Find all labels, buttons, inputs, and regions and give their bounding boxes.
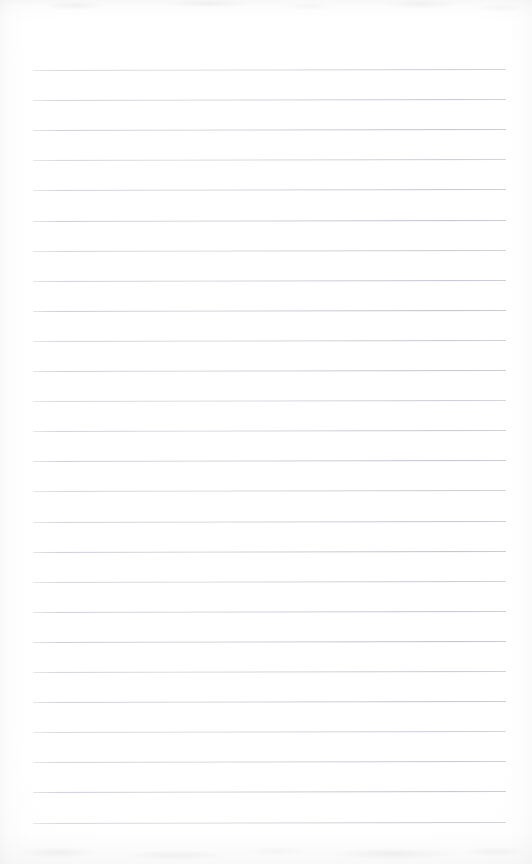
ruled-line [33,250,506,252]
ruled-line [33,159,506,161]
ruled-line [33,822,506,824]
ruled-line [33,791,506,793]
ruled-line [33,761,506,763]
ruled-line [33,129,506,131]
ruled-line [33,370,506,372]
ruled-line [33,310,506,312]
ruled-line [33,731,506,733]
ruled-line [33,430,506,432]
ruled-line [33,280,506,282]
ruled-line [33,671,506,673]
ruled-line [33,220,506,222]
ruled-line [33,490,506,492]
ruled-line [33,521,506,523]
ruled-line [33,641,506,643]
ruled-line [33,340,506,342]
ruled-line [33,551,506,553]
ruled-lines-group [0,0,532,864]
ruled-line [33,460,506,462]
ruled-line [33,69,506,71]
ruled-line [33,701,506,703]
scanned-page [0,0,532,864]
ruled-line [33,581,506,583]
ruled-line [33,189,506,191]
ruled-line [33,400,506,402]
ruled-line [33,611,506,613]
ruled-line [33,99,506,101]
